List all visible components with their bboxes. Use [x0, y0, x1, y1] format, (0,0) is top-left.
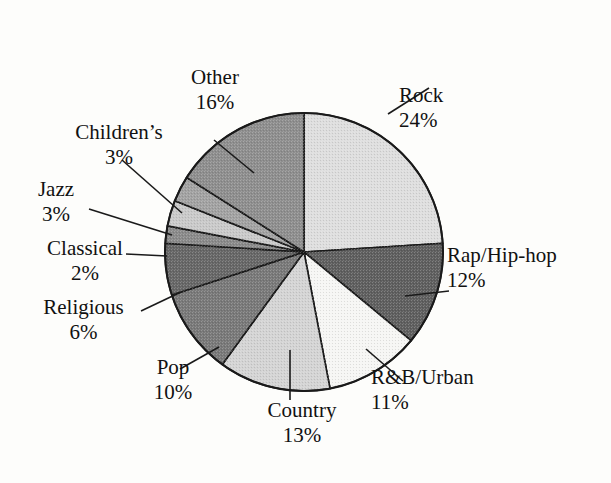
pie-label-jazz-percent: 3% — [20, 202, 92, 227]
pie-label-country: Country 13% — [247, 398, 357, 448]
pie-label-rock-name: Rock — [399, 83, 443, 108]
pie-label-classical: Classical 2% — [30, 236, 140, 286]
pie-label-pop-percent: 10% — [146, 380, 200, 405]
pie-chart-figure: Rock 24% Rap/Hip-hop 12% R&B/Urban 11% C… — [0, 0, 611, 483]
pie-label-pop: Pop 10% — [146, 355, 200, 405]
pie-label-religious: Religious 6% — [27, 295, 140, 345]
pie-label-religious-percent: 6% — [27, 320, 140, 345]
pie-label-classical-percent: 2% — [30, 261, 140, 286]
pie-texture-overlay — [165, 113, 443, 391]
pie-label-jazz: Jazz 3% — [20, 177, 92, 227]
pie-label-rnb-urban-name: R&B/Urban — [371, 365, 474, 390]
pie-label-rap-hip-hop-percent: 12% — [447, 268, 557, 293]
pie-label-rap-hip-hop: Rap/Hip-hop 12% — [447, 243, 557, 293]
pie-label-jazz-name: Jazz — [20, 177, 92, 202]
pie-label-religious-name: Religious — [27, 295, 140, 320]
pie-label-other-name: Other — [172, 65, 258, 90]
pie-label-country-percent: 13% — [247, 423, 357, 448]
pie-label-rnb-urban: R&B/Urban 11% — [371, 365, 474, 415]
pie-label-country-name: Country — [247, 398, 357, 423]
pie-label-rock: Rock 24% — [399, 83, 443, 133]
pie-label-classical-name: Classical — [30, 236, 140, 261]
pie-label-rap-hip-hop-name: Rap/Hip-hop — [447, 243, 557, 268]
pie-label-childrens-name: Children’s — [58, 120, 180, 145]
pie-label-rock-percent: 24% — [399, 108, 443, 133]
pie-slice-texture — [304, 113, 443, 252]
leader-line-jazz — [89, 209, 172, 235]
pie-label-other-percent: 16% — [172, 90, 258, 115]
pie-label-rnb-urban-percent: 11% — [371, 390, 474, 415]
pie-label-pop-name: Pop — [146, 355, 200, 380]
pie-label-childrens: Children’s 3% — [58, 120, 180, 170]
pie-label-other: Other 16% — [172, 65, 258, 115]
pie-label-childrens-percent: 3% — [58, 145, 180, 170]
